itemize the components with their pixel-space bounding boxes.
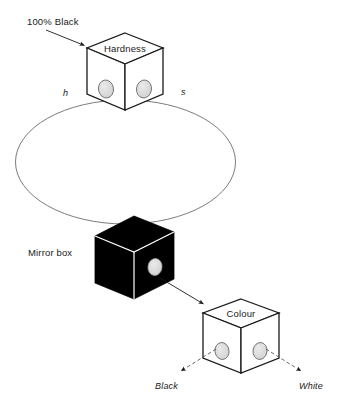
diagram-canvas: 100% Black Hardness h s — [0, 0, 339, 406]
mirror-box-label: Mirror box — [28, 247, 72, 258]
black-callout-group: 100% Black — [27, 16, 85, 46]
ellipse-loop-connector — [16, 100, 236, 224]
hardness-cube-label: Hardness — [104, 43, 146, 54]
loop-ellipse — [16, 100, 236, 224]
mirror-to-colour-arrow — [160, 278, 204, 304]
hardness-cube: Hardness — [87, 33, 163, 110]
axis-label-s: s — [181, 87, 186, 97]
mirror-box-cube: Mirror box — [28, 216, 174, 299]
diagram-root: 100% Black Hardness h s — [0, 0, 339, 406]
colour-cube: Colour — [203, 299, 279, 373]
output-label-white: White — [299, 381, 323, 391]
callout-label-100-black: 100% Black — [27, 16, 79, 27]
callout-arrow-line — [46, 30, 85, 46]
colour-cube-label: Colour — [227, 308, 256, 319]
axis-label-h: h — [63, 88, 68, 98]
output-label-black: Black — [155, 381, 178, 391]
